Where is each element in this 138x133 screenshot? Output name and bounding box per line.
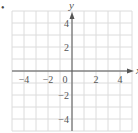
y-tick-label: 2 (64, 42, 69, 53)
y-tick-label: −2 (58, 90, 69, 101)
x-tick-label: 0 (63, 74, 68, 85)
x-tick-label: 2 (94, 74, 99, 85)
y-tick-label: 4 (64, 18, 69, 29)
coordinate-grid-chart: −4−202442−2−4 y x (0, 0, 138, 133)
x-tick-label: −4 (19, 74, 30, 85)
x-axis-arrow-icon (127, 69, 134, 74)
x-tick-label: −2 (43, 74, 54, 85)
y-tick-label: −4 (58, 114, 69, 125)
axes (12, 12, 134, 131)
y-axis-arrow-icon (70, 12, 75, 19)
x-axis-label: x (135, 64, 138, 76)
y-axis-label: y (68, 0, 74, 11)
x-tick-label: 4 (118, 74, 123, 85)
